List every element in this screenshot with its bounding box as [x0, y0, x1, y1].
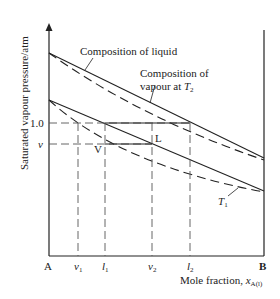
- T1-annotation: T1: [218, 195, 228, 209]
- tick-1.0: 1.0: [30, 117, 44, 129]
- y-axis-label: Saturated vapour pressure/atm: [18, 36, 30, 170]
- tick-v2: v2: [148, 260, 157, 274]
- tick-v1: v1: [74, 260, 83, 274]
- y-axis-arrow-icon: [46, 23, 53, 31]
- point-V: V: [94, 143, 102, 155]
- tick-l1: l1: [102, 260, 109, 274]
- tick-v: v: [38, 138, 43, 150]
- vapour-annotation-line2: vapour at T2: [140, 80, 194, 94]
- liquid-line-T1: [49, 100, 264, 191]
- phase-diagram: Saturated vapour pressure/atm 1.0 v A B …: [0, 0, 280, 299]
- liquid-leader: [85, 58, 93, 70]
- tick-l2: l2: [187, 260, 194, 274]
- tick-B: B: [259, 260, 267, 272]
- tick-A: A: [44, 260, 52, 272]
- T1-leader: [228, 188, 238, 196]
- x-axis-label: Mole fraction, xA(l): [180, 274, 263, 288]
- vapour-annotation-line1: Composition of: [140, 67, 209, 79]
- point-L: L: [155, 132, 162, 144]
- liquid-annotation: Composition of liquid: [80, 45, 178, 57]
